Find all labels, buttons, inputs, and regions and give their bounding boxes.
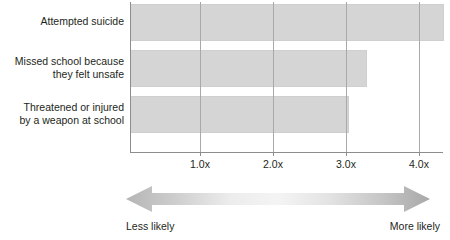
bar-missed-school (130, 50, 367, 87)
category-label-missed-school: Missed school because they felt unsafe (15, 55, 124, 80)
category-label-attempted-suicide: Attempted suicide (41, 15, 124, 28)
x-tick-label-3x: 3.0x (326, 158, 366, 170)
bar-attempted-suicide (130, 4, 444, 41)
tick-mark-1x (200, 152, 201, 156)
x-tick-label-4x: 4.0x (399, 158, 439, 170)
likelihood-annotation: Less likely More likely (0, 180, 450, 240)
tick-mark-3x (346, 152, 347, 156)
gridline-4x (419, 2, 420, 152)
annotation-label-less-likely: Less likely (126, 220, 174, 232)
gridline-1x (200, 2, 201, 152)
annotation-label-more-likely: More likely (390, 220, 440, 232)
double-headed-arrow-icon (126, 184, 430, 216)
bar-threatened-or-injured (130, 96, 349, 133)
y-axis-line (130, 2, 131, 153)
x-tick-label-2x: 2.0x (253, 158, 293, 170)
x-tick-label-1x: 1.0x (180, 158, 220, 170)
category-label-threatened-or-injured: Threatened or injured by a weapon at sch… (20, 101, 125, 126)
gridline-3x (346, 2, 347, 152)
gridline-2x (273, 2, 274, 152)
x-axis-line (130, 152, 443, 153)
tick-mark-2x (273, 152, 274, 156)
plot-area (130, 2, 443, 152)
tick-mark-4x (419, 152, 420, 156)
